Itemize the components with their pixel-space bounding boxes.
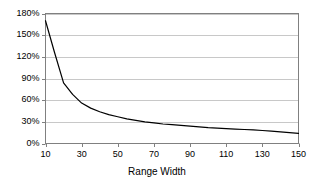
- data-series-line: [46, 21, 299, 134]
- x-tick-label: 150: [279, 150, 315, 159]
- x-tick-label: 130: [242, 150, 282, 159]
- plot-frame: [46, 14, 299, 144]
- y-tick-label: 0%: [26, 139, 39, 148]
- x-tick-label: 90: [170, 150, 210, 159]
- x-tick-label: 110: [206, 150, 246, 159]
- x-tick-label: 70: [134, 150, 174, 159]
- x-tick-marks-group: [47, 144, 300, 148]
- y-tick-label: 60%: [21, 95, 39, 104]
- y-tick-label: 120%: [16, 52, 39, 61]
- y-tick-label: 30%: [21, 117, 39, 126]
- x-tick-label: 10: [26, 150, 66, 159]
- line-chart: 0%30%60%90%120%150%180% 1030507090110130…: [0, 0, 314, 186]
- y-tick-label: 150%: [16, 30, 39, 39]
- x-tick-label: 50: [98, 150, 138, 159]
- x-axis-title: Range Width: [0, 166, 314, 177]
- y-tick-marks-group: [42, 15, 46, 145]
- y-tick-label: 180%: [16, 9, 39, 18]
- gridlines-group: [46, 15, 298, 123]
- x-tick-label: 30: [62, 150, 102, 159]
- y-tick-label: 90%: [21, 74, 39, 83]
